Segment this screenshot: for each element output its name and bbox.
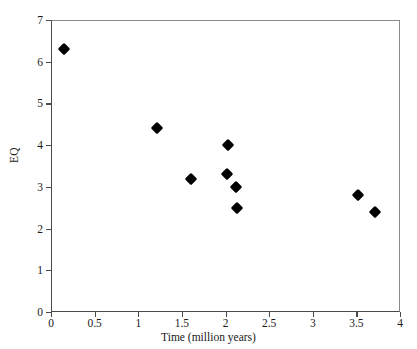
scatter-chart: 00.511.522.533.54 01234567 Time (million… (0, 0, 417, 349)
x-tick-label: 3 (310, 317, 316, 330)
y-axis-title: EQ (7, 135, 21, 175)
y-tick-label: 4 (24, 139, 43, 152)
x-tick-label: 1 (135, 317, 141, 330)
x-tick-label: 0.5 (87, 317, 101, 330)
x-tick-label: 2 (223, 317, 229, 330)
y-tick-label: 5 (24, 97, 43, 110)
y-tick-label: 3 (24, 180, 43, 193)
data-point (58, 43, 71, 56)
y-tick-label: 2 (24, 222, 43, 235)
data-point (230, 201, 243, 214)
data-point (230, 180, 243, 193)
x-tick-label: 3.5 (349, 317, 363, 330)
y-tick-label: 6 (24, 55, 43, 68)
data-point (185, 172, 198, 185)
x-tick-label: 4 (397, 317, 403, 330)
data-point (368, 206, 381, 219)
x-tick-label: 2.5 (262, 317, 276, 330)
data-point (151, 122, 164, 135)
data-point (222, 139, 235, 152)
y-tick-mark (46, 20, 51, 21)
y-tick-label: 1 (24, 264, 43, 277)
y-tick-label: 0 (24, 306, 43, 319)
y-tick-mark (46, 229, 51, 230)
x-tick-label: 0 (48, 317, 54, 330)
y-tick-mark (46, 270, 51, 271)
y-tick-label: 7 (24, 14, 43, 27)
y-tick-mark (46, 312, 51, 313)
y-tick-mark (46, 62, 51, 63)
data-point (352, 189, 365, 202)
data-point (221, 168, 234, 181)
y-tick-mark (46, 187, 51, 188)
y-tick-mark (46, 145, 51, 146)
plot-area (51, 20, 400, 312)
x-axis-title: Time (million years) (0, 330, 417, 344)
y-tick-mark (46, 103, 51, 104)
x-tick-label: 1.5 (175, 317, 189, 330)
